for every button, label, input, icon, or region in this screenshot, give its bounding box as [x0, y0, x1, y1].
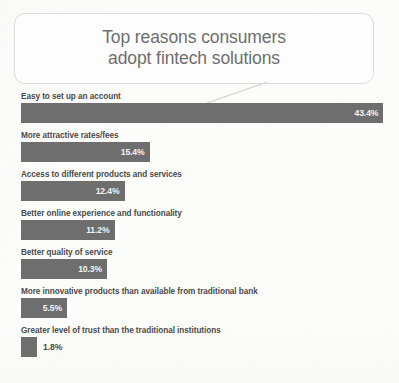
bar-category-label: Access to different products and service…	[21, 170, 182, 179]
bar-value-label: 5.5%	[43, 298, 62, 318]
bar	[21, 103, 383, 123]
bar-value-label: 43.4%	[355, 103, 379, 123]
bar-category-label: Easy to set up an account	[21, 92, 121, 101]
bar-value-label: 15.4%	[121, 142, 145, 162]
bar-row: Easy to set up an account43.4%	[0, 92, 399, 131]
bar-value-label: 1.8%	[43, 337, 62, 357]
bar-value-label: 11.2%	[86, 220, 109, 240]
bar-row: More innovative products than available …	[0, 287, 399, 326]
bar-row: More attractive rates/fees15.4%	[0, 131, 399, 170]
bar	[21, 337, 37, 357]
bar-category-label: Better online experience and functionali…	[21, 209, 182, 218]
chart-title: Top reasons consumers adopt fintech solu…	[15, 27, 373, 69]
bar-category-label: Better quality of service	[21, 248, 113, 257]
title-speech-bubble: Top reasons consumers adopt fintech solu…	[14, 13, 374, 84]
bar-row: Greater level of trust than the traditio…	[0, 326, 399, 365]
bar-value-label: 12.4%	[96, 181, 120, 201]
bar-row: Better online experience and functionali…	[0, 209, 399, 248]
bar-row: Access to different products and service…	[0, 170, 399, 209]
bar-category-label: Greater level of trust than the traditio…	[21, 326, 221, 335]
bar-row: Better quality of service10.3%	[0, 248, 399, 287]
chart-page: Top reasons consumers adopt fintech solu…	[0, 0, 399, 383]
bar-category-label: More innovative products than available …	[21, 287, 258, 296]
bar-chart: Easy to set up an account43.4%More attra…	[0, 92, 399, 365]
bar-value-label: 10.3%	[78, 259, 102, 279]
bar-category-label: More attractive rates/fees	[21, 131, 118, 140]
